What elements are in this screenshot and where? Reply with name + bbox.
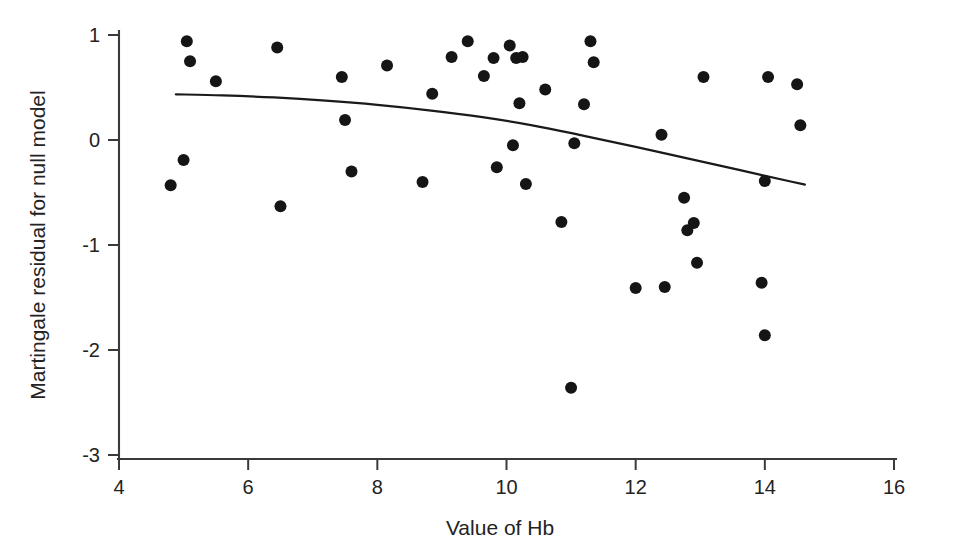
data-point [446, 51, 458, 63]
data-point [520, 178, 532, 190]
data-point [555, 216, 567, 228]
data-point [584, 35, 596, 47]
data-point [759, 329, 771, 341]
data-point [181, 35, 193, 47]
data-point [381, 59, 393, 71]
data-point [688, 217, 700, 229]
data-point [488, 52, 500, 64]
data-point [426, 88, 438, 100]
x-tick-label: 12 [625, 476, 647, 498]
y-axis-label: Martingale residual for null model [26, 90, 49, 399]
data-point [507, 139, 519, 151]
plot-background [0, 0, 955, 557]
data-point [271, 42, 283, 54]
data-point [178, 154, 190, 166]
data-point [165, 179, 177, 191]
y-tick-label: 1 [89, 24, 100, 46]
data-point [791, 78, 803, 90]
data-point [588, 56, 600, 68]
data-point [539, 84, 551, 96]
x-tick-label: 4 [113, 476, 124, 498]
data-point [691, 257, 703, 269]
y-tick-label: 0 [89, 129, 100, 151]
data-point [339, 114, 351, 126]
data-point [578, 98, 590, 110]
y-tick-label: -1 [82, 234, 100, 256]
data-point [491, 161, 503, 173]
data-point [513, 97, 525, 109]
data-point [565, 382, 577, 394]
data-point [184, 55, 196, 67]
y-tick-label: -2 [82, 339, 100, 361]
data-point [210, 75, 222, 87]
data-point [517, 51, 529, 63]
x-tick-label: 14 [754, 476, 776, 498]
x-tick-label: 6 [243, 476, 254, 498]
data-point [336, 71, 348, 83]
data-point [478, 70, 490, 82]
data-point [794, 119, 806, 131]
data-point [630, 282, 642, 294]
data-point [656, 129, 668, 141]
data-point [274, 200, 286, 212]
data-point [568, 137, 580, 149]
y-tick-label: -3 [82, 444, 100, 466]
data-point [346, 166, 358, 178]
scatter-plot-figure: 10-1-2-3 46810121416 Value of Hb Marting… [0, 0, 955, 557]
data-point [678, 192, 690, 204]
data-point [759, 175, 771, 187]
data-point [417, 176, 429, 188]
data-point [762, 71, 774, 83]
data-point [659, 281, 671, 293]
data-point [756, 277, 768, 289]
data-point [462, 35, 474, 47]
x-axis-label: Value of Hb [446, 516, 554, 539]
x-tick-label: 8 [372, 476, 383, 498]
data-point [697, 71, 709, 83]
x-tick-label: 10 [495, 476, 517, 498]
x-tick-label: 16 [883, 476, 905, 498]
data-point [504, 40, 516, 52]
